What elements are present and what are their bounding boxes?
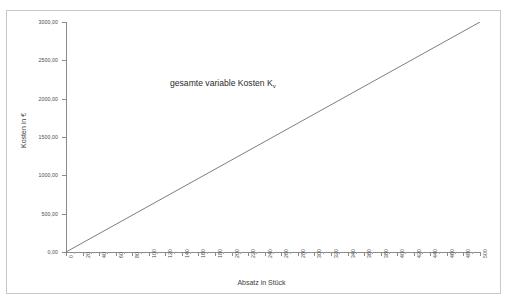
x-axis-title: Absatz in Stück <box>7 279 509 286</box>
x-axis-minor-tick-mark <box>174 252 175 254</box>
series-annotation-subscript: v <box>273 83 276 89</box>
x-axis-tick-mark <box>265 252 266 256</box>
y-axis-tick-label: 0,00 <box>48 249 59 255</box>
x-axis-minor-tick-mark <box>372 252 373 254</box>
x-axis-minor-tick-mark <box>306 252 307 254</box>
y-axis-tick-label: 3000,00 <box>39 19 58 25</box>
x-axis-tick-mark <box>149 252 150 256</box>
x-axis-minor-tick-mark <box>273 252 274 254</box>
series-annotation-main: gesamte variable Kosten K <box>170 78 273 88</box>
x-axis-minor-tick-mark <box>256 252 257 254</box>
x-axis-minor-tick-mark <box>74 252 75 254</box>
x-axis-minor-tick-mark <box>405 252 406 254</box>
plot-area <box>66 22 480 252</box>
x-axis-tick-mark <box>381 252 382 256</box>
x-axis-minor-tick-mark <box>422 252 423 254</box>
x-axis-minor-tick-mark <box>439 252 440 254</box>
x-axis-tick-mark <box>248 252 249 256</box>
x-axis-minor-tick-mark <box>455 252 456 254</box>
x-axis-tick-label: 500 <box>482 249 488 258</box>
y-axis-tick-label: 2000,00 <box>39 96 58 102</box>
x-axis-minor-tick-mark <box>107 252 108 254</box>
x-axis-tick-label: 20 <box>85 252 91 258</box>
x-axis-tick-mark <box>480 252 481 256</box>
x-axis-tick-mark <box>99 252 100 256</box>
x-axis-minor-tick-mark <box>190 252 191 254</box>
x-axis-minor-tick-mark <box>389 252 390 254</box>
x-axis-tick-label: 80 <box>134 252 140 258</box>
x-axis-tick-mark <box>232 252 233 256</box>
x-axis-tick-mark <box>298 252 299 256</box>
x-axis-tick-label: 40 <box>101 252 107 258</box>
x-axis-tick-mark <box>447 252 448 256</box>
x-axis-tick-label: 0 <box>68 255 74 258</box>
x-axis-minor-tick-mark <box>124 252 125 254</box>
x-axis-minor-tick-mark <box>157 252 158 254</box>
y-axis-tick-label: 2500,00 <box>39 57 58 63</box>
x-axis-minor-tick-mark <box>323 252 324 254</box>
y-axis-title: Kosten in € <box>20 113 27 148</box>
x-axis-tick-mark <box>348 252 349 256</box>
x-axis-tick-mark <box>182 252 183 256</box>
x-axis-minor-tick-mark <box>472 252 473 254</box>
x-axis-tick-mark <box>364 252 365 256</box>
x-axis-minor-tick-mark <box>290 252 291 254</box>
x-axis-tick-mark <box>331 252 332 256</box>
x-axis-tick-mark <box>83 252 84 256</box>
x-axis-tick-mark <box>66 252 67 256</box>
x-axis-minor-tick-mark <box>240 252 241 254</box>
y-axis-tick-label: 1000,00 <box>39 172 58 178</box>
x-axis-tick-mark <box>116 252 117 256</box>
data-series-line <box>66 22 480 252</box>
x-axis-tick-mark <box>414 252 415 256</box>
y-axis-tick-label: 1500,00 <box>39 134 58 140</box>
x-axis-minor-tick-mark <box>141 252 142 254</box>
x-axis-minor-tick-mark <box>339 252 340 254</box>
x-axis-minor-tick-mark <box>223 252 224 254</box>
x-axis-tick-mark <box>215 252 216 256</box>
y-axis-tick-label: 500,00 <box>42 211 58 217</box>
series-annotation: gesamte variable Kosten Kv <box>170 78 276 88</box>
x-axis-minor-tick-mark <box>207 252 208 254</box>
x-axis-tick-label: 60 <box>118 252 124 258</box>
